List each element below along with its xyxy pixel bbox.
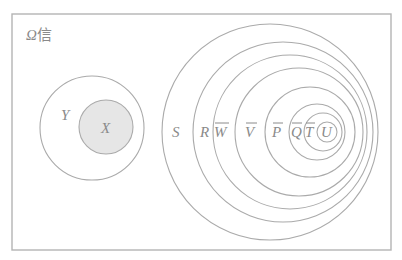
universe-title-text: 信 [37,27,52,43]
universe-title: Ω信 [26,27,52,43]
label-X: X [100,120,111,136]
label-P-bar: P [271,124,281,140]
label-Q-bar: Q [291,124,302,140]
label-R: R [199,124,209,140]
label-U: U [321,124,333,140]
omega-symbol: Ω [26,27,37,43]
venn-diagram: Ω信 Y X S R W V P Q T U [0,0,402,260]
label-S: S [172,124,180,140]
label-W-bar: W [214,124,228,140]
